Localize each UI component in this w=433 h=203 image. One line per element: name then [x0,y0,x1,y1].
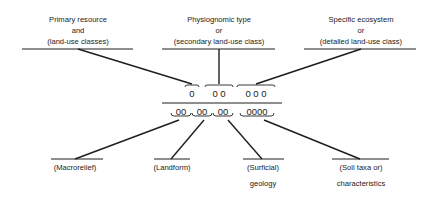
brace-bracket [205,85,233,87]
lower-code-group-surficial: 00 [213,106,233,117]
lower-code-group-landform: 00 [192,106,212,117]
connector-line [75,120,179,159]
top-label-line: or [358,26,365,35]
code-digits: 0 [189,88,194,99]
connector-line [171,120,204,159]
upper-code-group-ecosystem: 0 0 0 [237,85,275,99]
code-digits: 0000 [246,106,267,117]
code-digits: 0 0 [212,88,225,99]
lower-code-group-macrorelief: 00 [171,106,191,117]
connector-line [228,120,262,159]
top-label-primary-resource: Primary resource and (land-use classes) [22,15,133,49]
bottom-label-soil-taxa: (Soil taxa or) characteristics [332,159,389,188]
bottom-label-surficial-geology: (Surficial) geology [243,159,284,188]
bottom-label-macrorelief: (Macrorelief) [51,159,103,172]
bottom-label-line: (Surficial) [247,163,280,172]
upper-code-group-primary: 0 [185,85,199,99]
top-label-line: (land-use classes) [47,37,109,46]
top-label-line: Physiognomic type [187,15,251,24]
bottom-label-line: (Soil taxa or) [339,163,383,172]
code-digits: 0 0 0 [245,88,266,99]
bottom-label-landform: (Landform) [153,159,191,172]
upper-code-group-physiognomic: 0 0 [205,85,233,99]
connector-line [256,49,361,84]
top-label-line: and [72,26,85,35]
code-digits: 00 [218,106,229,117]
top-label-line: (detailed land-use class) [320,37,403,46]
lower-code-group-soil: 0000 [240,106,274,117]
bottom-label-line: characteristics [337,179,386,188]
connector-line [78,49,192,84]
connector-line [264,120,360,159]
top-label-line: (secondary land-use class) [174,37,265,46]
top-label-line: Specific ecosystem [329,15,394,24]
bottom-label-line: (Macrorelief) [54,163,97,172]
brace-bracket [185,85,199,87]
top-label-line: Primary resource [49,15,107,24]
top-label-specific-ecosystem: Specific ecosystem or (detailed land-use… [304,15,416,49]
top-label-physiognomic-type: Physiognomic type or (secondary land-use… [162,15,275,49]
classification-diagram: Primary resource and (land-use classes) … [0,0,433,203]
code-digits: 00 [176,106,187,117]
top-label-line: or [216,26,223,35]
bottom-label-line: geology [250,179,277,188]
bottom-label-line: (Landform) [153,163,191,172]
code-digits: 00 [197,106,208,117]
brace-bracket [237,85,275,87]
